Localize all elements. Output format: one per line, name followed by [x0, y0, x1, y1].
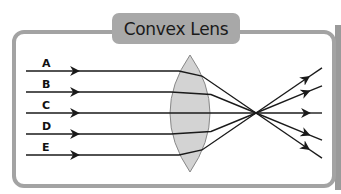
ray-label: A: [42, 57, 51, 70]
ray-outgoing-line: [306, 68, 322, 79]
ray-label: E: [42, 141, 50, 154]
ray-outgoing-line: [306, 134, 322, 141]
ray-outgoing-line: [306, 86, 322, 93]
ray-outgoing-line: [306, 147, 322, 158]
ray-label: C: [42, 99, 50, 112]
ray-label: D: [42, 120, 51, 133]
ray-label: B: [42, 78, 50, 91]
convex-lens-ray-diagram: ABCDE: [0, 0, 341, 194]
